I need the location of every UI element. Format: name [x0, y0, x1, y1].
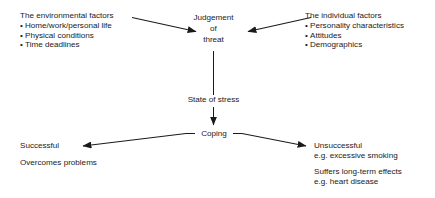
coping-node: Coping [196, 128, 232, 139]
stress-coping-diagram: The environmental factors Home/work/pers… [0, 0, 435, 198]
environmental-factors-list: Home/work/personal life Physical conditi… [20, 21, 112, 50]
judgement-line-3: threat [178, 34, 249, 45]
list-item: Personality characteristics [305, 21, 404, 31]
list-item: Home/work/personal life [20, 21, 112, 31]
individual-factors-heading: The individual factors [305, 11, 381, 21]
unsuccessful-detail-3: e.g. heart disease [314, 177, 402, 187]
unsuccessful-detail-1: e.g. excessive smoking [314, 151, 402, 161]
arrow-coping-to-unsuccessful [233, 134, 306, 147]
successful-outcome-block: Successful Overcomes problems [20, 141, 97, 167]
state-of-stress-node: State of stress [176, 94, 251, 105]
individual-factors-list: Personality characteristics Attitudes De… [305, 21, 404, 50]
arrow-coping-to-successful [83, 134, 195, 147]
judgement-line-1: Judgement [178, 12, 249, 23]
environmental-factors-heading: The environmental factors [20, 11, 114, 21]
successful-detail: Overcomes problems [20, 158, 97, 168]
judgement-line-2: of [178, 23, 249, 34]
unsuccessful-label: Unsuccessful [314, 141, 402, 151]
successful-label: Successful [20, 141, 97, 151]
list-item: Time deadlines [20, 40, 112, 50]
unsuccessful-outcome-block: Unsuccessful e.g. excessive smoking Suff… [314, 141, 402, 187]
list-item: Demographics [305, 40, 404, 50]
unsuccessful-detail-2: Suffers long-term effects [314, 167, 402, 177]
arrow-individual-to-judgement [248, 18, 311, 32]
list-item: Physical conditions [20, 31, 112, 41]
judgement-of-threat-node: Judgement of threat [178, 12, 249, 46]
list-item: Attitudes [305, 31, 404, 41]
